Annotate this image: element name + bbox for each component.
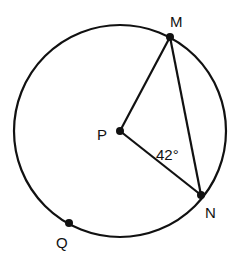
point-m (166, 33, 174, 41)
circle-diagram: M P N Q 42° (0, 0, 238, 267)
label-q: Q (56, 234, 68, 251)
segment-pm (120, 37, 170, 131)
point-n (197, 191, 205, 199)
segment-pn (120, 131, 201, 195)
point-p (116, 127, 124, 135)
point-q (65, 219, 73, 227)
label-p: P (97, 126, 107, 143)
angle-label: 42° (156, 146, 179, 163)
label-n: N (205, 204, 216, 221)
segment-mn (170, 37, 201, 195)
label-m: M (170, 13, 183, 30)
